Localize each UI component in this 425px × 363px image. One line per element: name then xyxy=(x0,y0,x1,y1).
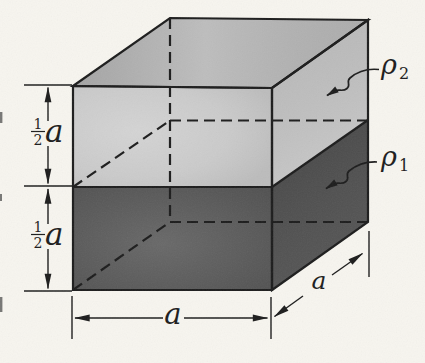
halftone-noise-overlay xyxy=(0,0,425,363)
figure-canvas: 1 2 a 1 2 a a a ρ2 ρ1 xyxy=(0,0,425,363)
cube-density-diagram: 1 2 a 1 2 a a a ρ2 ρ1 xyxy=(0,0,425,363)
